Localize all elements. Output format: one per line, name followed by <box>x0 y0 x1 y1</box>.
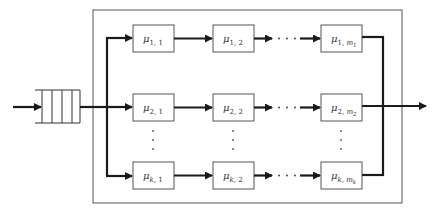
queueing-diagram: μ1, 1μ1, 2μ1, m1μ2, 1μ2, 2μ2, m2μk, 1μk,… <box>0 0 439 213</box>
service-stage-box: μk, mk <box>321 162 362 189</box>
horizontal-ellipsis <box>286 38 288 40</box>
horizontal-ellipsis <box>294 175 296 177</box>
service-stage-box: μ1, m1 <box>321 25 362 52</box>
horizontal-ellipsis <box>286 107 288 109</box>
row-2: μ2, 1μ2, 2μ2, m2 <box>133 94 362 121</box>
horizontal-ellipsis <box>286 175 288 177</box>
horizontal-ellipsis <box>278 107 280 109</box>
row-k: μk, 1μk, 2μk, mk <box>133 162 362 189</box>
service-stage-box: μ1, 2 <box>213 25 254 52</box>
service-stage-box: μ1, 1 <box>133 25 174 52</box>
service-stage-box: μ2, 2 <box>213 94 254 121</box>
vertical-ellipsis <box>152 130 342 150</box>
horizontal-ellipsis <box>294 38 296 40</box>
horizontal-ellipsis <box>294 107 296 109</box>
service-stage-box: μ2, 1 <box>133 94 174 121</box>
service-stage-box: μk, 2 <box>213 162 254 189</box>
horizontal-ellipsis <box>278 38 280 40</box>
queue-buffer <box>35 90 80 123</box>
service-stage-box: μ2, m2 <box>321 94 362 121</box>
horizontal-ellipsis <box>278 175 280 177</box>
row-1: μ1, 1μ1, 2μ1, m1 <box>133 25 362 52</box>
service-stage-box: μk, 1 <box>133 162 174 189</box>
